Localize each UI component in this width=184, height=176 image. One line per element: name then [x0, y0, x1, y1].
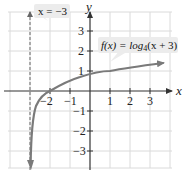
asymptote-label: x = −3	[38, 5, 67, 17]
asymptote-callout: x = −3	[34, 4, 70, 21]
x-tick-label: 2	[127, 94, 133, 108]
x-axis-label: x	[175, 83, 182, 98]
y-tick-label: −1	[73, 104, 86, 118]
y-tick-label: −3	[73, 144, 86, 158]
svg-text:f(x) = log4(x + 3): f(x) = log4(x + 3)	[101, 39, 178, 53]
function-label-prefix: f(x) = log	[101, 39, 144, 52]
y-tick-label: −2	[73, 124, 86, 138]
x-tick-label: 3	[147, 94, 153, 108]
y-axis-label: y	[84, 0, 92, 14]
y-tick-label: 2	[78, 44, 84, 58]
y-tick-label: 3	[78, 24, 84, 38]
x-tick-label: 1	[107, 94, 113, 108]
function-label-suffix: (x + 3)	[147, 39, 177, 52]
log-function-graph: x y −2 −1 1 2 3 3 2 1 −1 −2 −3 x = −3 f(…	[0, 0, 184, 176]
